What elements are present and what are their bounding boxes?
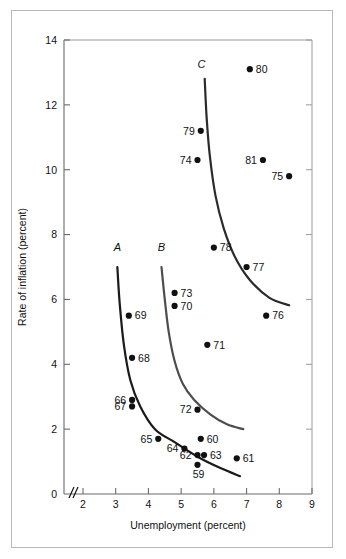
point-label-78: 78 — [220, 241, 232, 253]
point-label-73: 73 — [181, 287, 193, 299]
phillips-curve-C — [205, 79, 289, 305]
data-point-81 — [260, 157, 266, 163]
curve-label-C: C — [197, 58, 205, 70]
data-point-79 — [198, 128, 204, 134]
data-point-69 — [126, 313, 132, 319]
point-label-80: 80 — [256, 63, 268, 75]
data-point-61 — [234, 455, 240, 461]
data-point-80 — [247, 66, 253, 72]
point-label-61: 61 — [243, 452, 255, 464]
data-point-74 — [194, 157, 200, 163]
data-point-60 — [198, 436, 204, 442]
point-label-65: 65 — [141, 433, 153, 445]
point-label-71: 71 — [213, 339, 225, 351]
x-tick-label: 5 — [178, 498, 184, 510]
point-label-72: 72 — [180, 403, 192, 415]
point-label-74: 74 — [180, 154, 192, 166]
data-point-67 — [129, 403, 135, 409]
data-point-77 — [243, 264, 249, 270]
point-label-77: 77 — [253, 261, 265, 273]
y-tick-label: 10 — [45, 164, 57, 176]
point-label-60: 60 — [207, 433, 219, 445]
data-point-62 — [194, 452, 200, 458]
y-tick-label: 0 — [51, 488, 57, 500]
point-label-64: 64 — [167, 442, 179, 454]
y-tick-label: 8 — [51, 228, 57, 240]
point-label-79: 79 — [183, 125, 195, 137]
x-tick-label: 8 — [276, 498, 282, 510]
data-point-78 — [211, 244, 217, 250]
data-point-72 — [194, 407, 200, 413]
phillips-curve-figure: 0246810121423456789Unemployment (percent… — [0, 0, 346, 559]
y-tick-label: 12 — [45, 99, 57, 111]
curve-label-A: A — [113, 241, 121, 253]
point-label-69: 69 — [135, 309, 147, 321]
x-tick-label: 9 — [309, 498, 315, 510]
data-point-75 — [286, 173, 292, 179]
data-point-76 — [263, 313, 269, 319]
point-label-63: 63 — [210, 449, 222, 461]
y-tick-label: 6 — [51, 293, 57, 305]
y-tick-label: 14 — [45, 34, 57, 46]
data-point-73 — [172, 290, 178, 296]
point-label-67: 67 — [114, 400, 126, 412]
x-tick-label: 6 — [211, 498, 217, 510]
x-tick-label: 7 — [244, 498, 250, 510]
data-point-65 — [155, 436, 161, 442]
point-label-70: 70 — [181, 300, 193, 312]
point-label-75: 75 — [271, 170, 283, 182]
data-point-71 — [204, 342, 210, 348]
x-tick-label: 2 — [80, 498, 86, 510]
x-tick-label: 3 — [113, 498, 119, 510]
y-tick-label: 2 — [51, 423, 57, 435]
data-point-64 — [181, 446, 187, 452]
data-point-66 — [129, 397, 135, 403]
point-label-81: 81 — [245, 154, 257, 166]
data-point-70 — [172, 303, 178, 309]
x-axis-title: Unemployment (percent) — [130, 519, 246, 531]
y-tick-label: 4 — [51, 358, 57, 370]
data-point-63 — [201, 452, 207, 458]
curve-label-B: B — [158, 241, 165, 253]
x-tick-label: 4 — [146, 498, 152, 510]
y-axis-title: Rate of inflation (percent) — [16, 208, 28, 326]
scatter-plot-canvas: 0246810121423456789Unemployment (percent… — [0, 0, 346, 559]
point-label-59: 59 — [193, 468, 205, 480]
data-point-68 — [129, 355, 135, 361]
point-label-76: 76 — [272, 309, 284, 321]
point-label-68: 68 — [138, 352, 150, 364]
